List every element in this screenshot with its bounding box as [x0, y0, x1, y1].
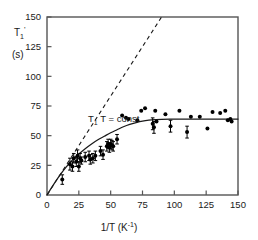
- data-point: [151, 122, 155, 126]
- data-point: [169, 124, 173, 128]
- data-point: [93, 154, 97, 158]
- x-axis-tick-labels: 0255075100125150: [44, 199, 246, 210]
- data-point: [153, 109, 157, 113]
- data-point: [211, 110, 215, 114]
- data-point: [72, 156, 76, 160]
- x-tick-label-75: 75: [137, 199, 148, 210]
- x-tick-label-150: 150: [230, 199, 246, 210]
- y-axis-label-units: (s): [12, 49, 24, 60]
- data-point: [79, 159, 83, 163]
- y-tick-label-0: 0: [36, 189, 41, 200]
- data-point: [155, 119, 159, 123]
- data-point: [177, 109, 181, 113]
- y-tick-label-125: 125: [25, 41, 41, 52]
- x-tick-label-0: 0: [44, 199, 49, 210]
- plot-frame: [47, 17, 238, 195]
- x-tick-label-50: 50: [105, 199, 116, 210]
- x-tick-label-125: 125: [198, 199, 214, 210]
- x-axis-label: 1/T (K-1): [101, 221, 138, 233]
- data-point-markers: [60, 106, 233, 181]
- y-tick-label-75: 75: [30, 100, 41, 111]
- figure-container: 0255075100125150 0255075100125150 T1 T =…: [0, 0, 258, 240]
- data-point: [218, 111, 222, 115]
- chart-canvas: 0255075100125150 0255075100125150 T1 T =…: [0, 0, 258, 240]
- data-point: [185, 130, 189, 134]
- data-point: [198, 115, 202, 119]
- data-point: [189, 115, 193, 119]
- data-point: [163, 112, 167, 116]
- data-point: [60, 178, 64, 182]
- annotation-t1-t-const: T1 T = const.: [88, 113, 142, 126]
- data-point: [143, 106, 147, 110]
- y-tick-label-100: 100: [25, 71, 41, 82]
- data-point: [87, 154, 91, 158]
- data-point: [111, 144, 115, 148]
- data-point: [83, 155, 87, 159]
- data-point: [98, 149, 102, 153]
- data-point: [74, 160, 78, 164]
- data-point: [230, 119, 234, 123]
- y-tick-label-150: 150: [25, 11, 41, 22]
- data-point: [205, 127, 209, 131]
- data-point: [223, 109, 227, 113]
- y-axis-label-symbol: T1': [14, 25, 26, 40]
- y-tick-label-50: 50: [30, 130, 41, 141]
- dashed-reference-line: [47, 17, 162, 195]
- x-tick-label-100: 100: [166, 199, 182, 210]
- y-tick-label-25: 25: [30, 160, 41, 171]
- data-point: [77, 165, 81, 169]
- data-point: [115, 137, 119, 141]
- axes-frame: [47, 17, 238, 195]
- data-point: [101, 153, 105, 157]
- data-point: [70, 165, 74, 169]
- data-point: [152, 125, 156, 129]
- y-axis-tick-labels: 0255075100125150: [25, 11, 41, 200]
- x-tick-label-25: 25: [74, 199, 85, 210]
